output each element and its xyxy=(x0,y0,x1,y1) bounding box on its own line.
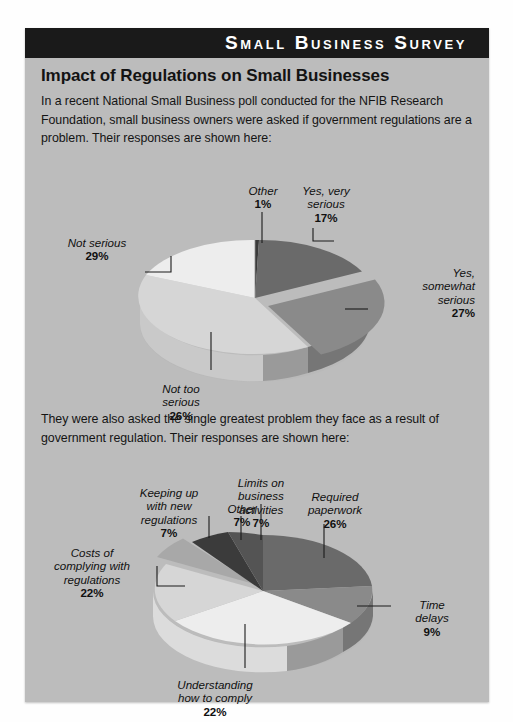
pie1-label-yes-somewhat-text: Yes, somewhat serious xyxy=(422,266,475,306)
pie2-label-keeping: Keeping up with new regulations 7% xyxy=(121,472,217,554)
pie2-label-time-pct: 9% xyxy=(393,625,471,639)
pie-chart-regulations-problem: Other 1% Yes, very serious 17% Yes, some… xyxy=(25,146,489,396)
pie1-label-not-too: Not too serious 26% xyxy=(133,368,229,436)
pie1-label-not-serious-pct: 29% xyxy=(47,249,147,263)
second-paragraph: They were also asked the single greatest… xyxy=(41,410,479,447)
document-page: Small Business Survey Impact of Regulati… xyxy=(0,0,513,722)
pie2-label-costs-pct: 22% xyxy=(31,586,153,600)
pie2-label-time-text: Time delays xyxy=(415,598,449,625)
pie2-label-required-text: Required paperwork xyxy=(308,490,362,517)
pie2-label-time: Time delays 9% xyxy=(393,584,471,652)
pie2-label-required: Required paperwork 26% xyxy=(287,476,383,544)
pie1-slices xyxy=(138,240,384,355)
pie2-label-keeping-text: Keeping up with new regulations xyxy=(140,486,199,526)
pie1-label-not-too-pct: 26% xyxy=(133,409,229,423)
survey-banner: Small Business Survey xyxy=(25,28,489,58)
pie1-label-yes-very-pct: 17% xyxy=(279,211,373,225)
intro-paragraph: In a recent National Small Business poll… xyxy=(41,92,475,148)
pie1-label-not-serious: Not serious 29% xyxy=(47,222,147,276)
pie2-label-understanding-pct: 22% xyxy=(153,705,277,719)
pie2-label-required-pct: 26% xyxy=(287,517,383,531)
pie2-label-understanding: Understanding how to comply 22% xyxy=(153,664,277,722)
pie1-label-yes-very: Yes, very serious 17% xyxy=(279,170,373,238)
pie2-label-other-text: Other xyxy=(228,502,257,515)
pie2-label-other: Other 7% xyxy=(211,488,273,542)
pie1-label-yes-somewhat-pct: 27% xyxy=(363,306,475,320)
banner-title: Small Business Survey xyxy=(225,32,467,54)
pie1-label-not-serious-text: Not serious xyxy=(68,236,127,249)
pie1-label-yes-somewhat: Yes, somewhat serious 27% xyxy=(363,252,475,334)
pie1-label-not-too-text: Not too serious xyxy=(162,382,199,409)
survey-sheet: Small Business Survey Impact of Regulati… xyxy=(25,28,489,702)
pie1-label-other-text: Other xyxy=(249,184,278,197)
page-title: Impact of Regulations on Small Businesse… xyxy=(41,66,471,86)
pie1-label-yes-very-text: Yes, very serious xyxy=(302,184,350,211)
pie2-label-understanding-text: Understanding how to comply xyxy=(177,678,252,705)
survey-body: Impact of Regulations on Small Businesse… xyxy=(25,58,489,702)
pie-chart-greatest-problem: Limits on business activities 7% Require… xyxy=(25,458,489,702)
pie2-label-other-pct: 7% xyxy=(211,515,273,529)
pie2-label-keeping-pct: 7% xyxy=(121,526,217,540)
pie2-label-costs-text: Costs of complying with regulations xyxy=(54,546,130,586)
